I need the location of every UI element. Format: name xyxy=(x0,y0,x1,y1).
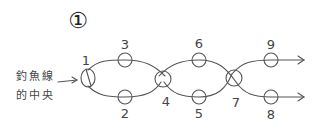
caption-line-2: 的中央 xyxy=(16,88,55,102)
node-label: 3 xyxy=(121,37,129,52)
node-7: 7 xyxy=(226,70,242,110)
caption-line-1: 釣魚線 xyxy=(16,69,55,83)
node-label: 2 xyxy=(121,106,129,121)
node-label: 6 xyxy=(195,36,203,51)
node-2: 2 xyxy=(118,90,132,121)
node-label: 8 xyxy=(267,107,275,122)
node-label: 5 xyxy=(195,106,203,121)
node-label: 1 xyxy=(82,53,90,68)
node-5: 5 xyxy=(192,90,206,121)
node-9: 9 xyxy=(264,37,278,67)
node-label: 9 xyxy=(267,37,275,52)
node-3: 3 xyxy=(118,37,132,67)
knot-diagram: ① 釣魚線 的中央 1 3 2 4 6 xyxy=(0,0,327,133)
diagram-title: ① xyxy=(68,8,88,33)
node-4: 4 xyxy=(155,71,171,109)
node-8: 8 xyxy=(264,90,278,122)
node-6: 6 xyxy=(192,36,206,67)
node-label: 7 xyxy=(232,95,240,110)
pointer-arrow-icon xyxy=(58,77,77,83)
bead-icon xyxy=(81,69,95,87)
node-label: 4 xyxy=(162,94,170,109)
line-paths xyxy=(88,56,304,101)
